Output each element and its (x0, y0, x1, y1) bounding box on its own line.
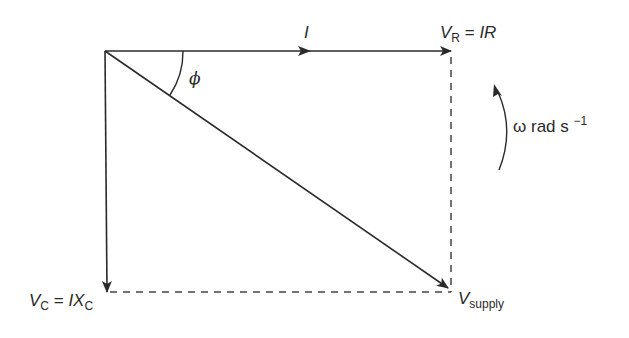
rotation-direction-arrow (498, 92, 507, 170)
current-label: I (304, 24, 309, 41)
supply-voltage-label: Vsupply (458, 290, 504, 307)
rotation-arrowhead-icon (493, 84, 502, 97)
phasor-diagram (0, 0, 629, 338)
capacitor-voltage-phasor (105, 51, 107, 292)
angular-velocity-label: ω rad s −1 (513, 118, 587, 135)
supply-voltage-phasor (105, 51, 448, 288)
capacitor-voltage-label: VC = IXC (29, 292, 93, 309)
phase-angle-label: ϕ (189, 70, 201, 87)
current-phasor (105, 46, 451, 56)
resistor-voltage-label: VR = IR (440, 24, 496, 41)
phase-angle-arc (170, 51, 183, 95)
